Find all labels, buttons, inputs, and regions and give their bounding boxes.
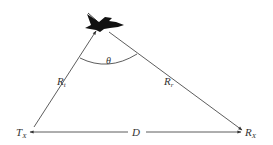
rt-label: Rt bbox=[57, 76, 66, 89]
theta-label: θ bbox=[106, 56, 111, 66]
aircraft-icon bbox=[85, 13, 124, 32]
receiver-label: RX bbox=[245, 127, 256, 140]
transmitter-label: TX bbox=[16, 127, 26, 140]
range-rr-line bbox=[109, 32, 242, 130]
rr-label: Rr bbox=[164, 76, 173, 89]
bistatic-geometry-diagram bbox=[0, 0, 273, 145]
baseline-label: D bbox=[132, 127, 140, 138]
